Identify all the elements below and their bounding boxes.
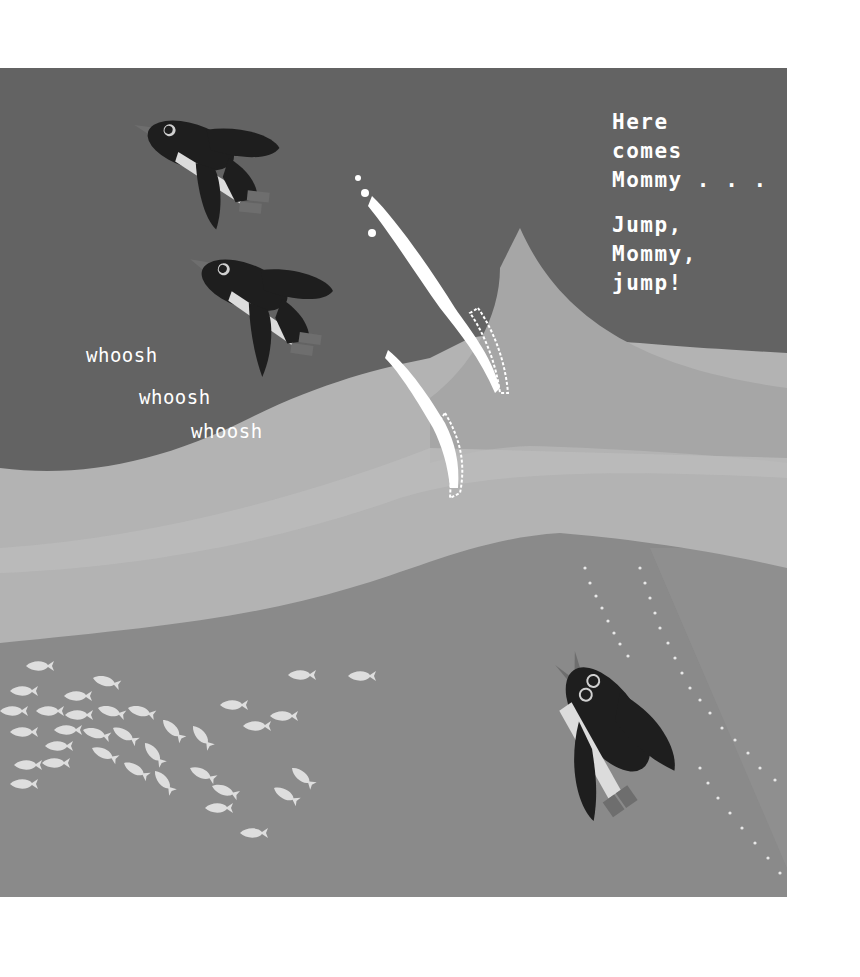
narration-line: Mommy . . .	[612, 166, 768, 195]
sound-effect-whoosh-1: whoosh	[86, 344, 158, 366]
illustration-page: Here comes Mommy . . . Jump, Mommy, jump…	[0, 68, 787, 897]
narration-line: Here	[612, 108, 768, 137]
narration-line: Jump,	[612, 211, 768, 240]
sound-effect-whoosh-2: whoosh	[139, 386, 211, 408]
narration-line: Mommy,	[612, 240, 768, 269]
penguin-1-icon	[112, 97, 288, 243]
narration-text: Here comes Mommy . . . Jump, Mommy, jump…	[612, 108, 768, 298]
sound-effect-whoosh-3: whoosh	[191, 420, 263, 442]
narration-line: jump!	[612, 269, 768, 298]
penguin-2-icon	[161, 235, 342, 392]
narration-line: comes	[612, 137, 768, 166]
